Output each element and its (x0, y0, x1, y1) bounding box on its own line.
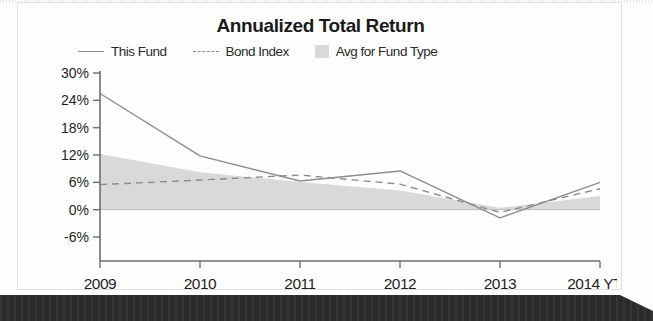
x-tick-label: 2013 (484, 275, 516, 292)
y-tick-label: 24% (61, 92, 89, 108)
bottom-banner (0, 295, 653, 321)
screenshot-page: Annualized Total Return This Fund Bond I… (0, 0, 653, 321)
legend-item-bond-index[interactable]: Bond Index (193, 45, 289, 59)
solid-line-swatch-icon (78, 51, 104, 52)
banner-texture (0, 295, 653, 321)
y-tick-label: 30% (61, 65, 89, 81)
chart-svg: 30%24%18%12%6%0%-6% 20092010201120122013… (42, 65, 617, 295)
legend-label-bond-index: Bond Index (226, 45, 289, 59)
chart-card-frame: Annualized Total Return This Fund Bond I… (17, 2, 622, 290)
chart-plot-area: 30%24%18%12%6%0%-6% 20092010201120122013… (42, 65, 617, 295)
legend-label-avg-for-fund-type: Avg for Fund Type (336, 45, 437, 59)
filled-box-swatch-icon (315, 45, 329, 58)
y-tick-label: 6% (69, 174, 89, 190)
y-tick-label: 12% (61, 147, 89, 163)
x-tick-label: 2012 (384, 275, 416, 292)
page-title: Annualized Total Return (18, 15, 623, 37)
y-axis-tick-labels: 30%24%18%12%6%0%-6% (61, 65, 89, 245)
chart-legend: This Fund Bond Index Avg for Fund Type (78, 45, 598, 59)
x-axis-tick-labels: 200920102011201220132014 YTC (84, 275, 617, 292)
y-tick-label: -6% (64, 229, 89, 245)
x-tick-label: 2011 (284, 275, 315, 292)
dashed-line-swatch-icon (193, 51, 219, 52)
legend-item-this-fund[interactable]: This Fund (78, 45, 167, 59)
x-tick-label: 2010 (184, 275, 217, 292)
legend-label-this-fund: This Fund (111, 45, 167, 59)
y-tick-label: 18% (61, 120, 89, 136)
x-tick-label: 2009 (84, 275, 116, 292)
x-tick-label: 2014 YTC (567, 275, 617, 292)
legend-item-avg-for-fund-type[interactable]: Avg for Fund Type (315, 45, 437, 59)
y-tick-label: 0% (69, 202, 89, 218)
